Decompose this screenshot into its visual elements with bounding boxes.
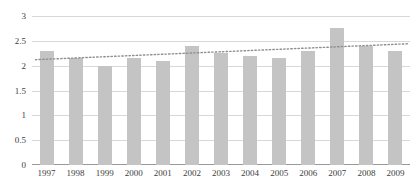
x-tick-label: 1998 — [67, 168, 85, 178]
bar-1999 — [98, 66, 112, 165]
bar-2002 — [185, 46, 199, 165]
bar-2000 — [127, 58, 141, 165]
bar-2007 — [330, 28, 344, 165]
x-tick-label: 2004 — [241, 168, 259, 178]
y-tick-label: 0 — [22, 160, 27, 170]
bar-1998 — [69, 58, 83, 165]
x-tick-label: 1997 — [38, 168, 56, 178]
y-tick-label: 1.5 — [15, 86, 26, 96]
bar-2006 — [301, 51, 315, 165]
y-tick-label: 0.5 — [15, 135, 26, 145]
bar-1997 — [40, 51, 54, 165]
x-tick-label: 2001 — [154, 168, 172, 178]
y-tick-label: 3 — [22, 11, 27, 21]
x-tick-label: 2000 — [125, 168, 143, 178]
bar-2001 — [156, 61, 170, 165]
y-tick-label: 2.5 — [15, 36, 26, 46]
x-tick-label: 2005 — [270, 168, 288, 178]
x-axis: 1997199819992000200120022003200420052006… — [32, 168, 410, 188]
x-tick-label: 2008 — [357, 168, 375, 178]
bar-2005 — [272, 58, 286, 165]
bar-2009 — [388, 51, 402, 165]
y-tick-label: 2 — [22, 61, 27, 71]
bars-layer — [32, 16, 410, 165]
x-tick-label: 2007 — [328, 168, 346, 178]
y-axis: 3 2.5 2 1.5 1 0.5 0 — [0, 0, 28, 193]
x-tick-label: 1999 — [96, 168, 114, 178]
y-tick-label: 1 — [22, 110, 27, 120]
bar-2004 — [243, 56, 257, 165]
x-tick-label: 2003 — [212, 168, 230, 178]
bar-2008 — [359, 46, 373, 165]
bar-2003 — [214, 53, 228, 165]
bar-chart: 3 2.5 2 1.5 1 0.5 0 19971998199920002001… — [0, 0, 416, 193]
plot-area — [32, 16, 410, 165]
x-tick-label: 2002 — [183, 168, 201, 178]
x-tick-label: 2006 — [299, 168, 317, 178]
x-tick-label: 2009 — [386, 168, 404, 178]
